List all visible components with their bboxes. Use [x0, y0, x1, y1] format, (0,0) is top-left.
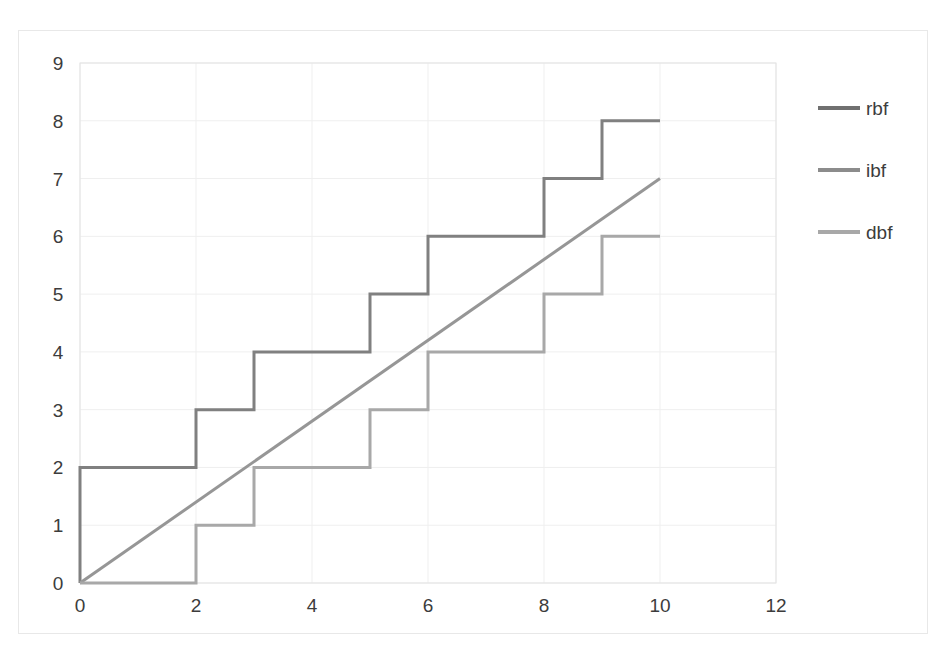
- y-tick-label: 1: [53, 515, 64, 536]
- legend-label-dbf: dbf: [866, 222, 893, 243]
- x-tick-label: 4: [307, 595, 318, 616]
- y-tick-label: 6: [53, 226, 64, 247]
- y-tick-label: 3: [53, 400, 64, 421]
- x-tick-label: 2: [191, 595, 202, 616]
- x-tick-label: 12: [765, 595, 786, 616]
- x-tick-label: 10: [649, 595, 670, 616]
- line-chart: 0123456789 024681012 rbfibfdbf: [0, 0, 946, 664]
- legend-label-ibf: ibf: [866, 160, 887, 181]
- y-tick-label: 2: [53, 457, 64, 478]
- x-tick-label: 6: [423, 595, 434, 616]
- x-tick-label: 8: [539, 595, 550, 616]
- y-tick-label: 9: [53, 53, 64, 74]
- y-tick-label: 8: [53, 111, 64, 132]
- legend-label-rbf: rbf: [866, 98, 889, 119]
- y-axis-tick-labels: 0123456789: [53, 53, 64, 594]
- gridlines-group: [80, 63, 776, 583]
- y-tick-label: 7: [53, 169, 64, 190]
- x-tick-label: 0: [75, 595, 86, 616]
- legend: rbfibfdbf: [818, 98, 893, 243]
- y-tick-label: 5: [53, 284, 64, 305]
- y-tick-label: 0: [53, 573, 64, 594]
- x-axis-tick-labels: 024681012: [75, 595, 787, 616]
- series-line-ibf: [80, 179, 660, 583]
- y-tick-label: 4: [53, 342, 64, 363]
